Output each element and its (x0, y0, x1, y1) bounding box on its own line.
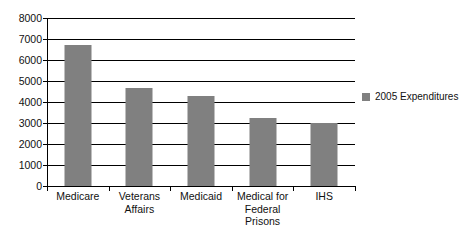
bars-layer (47, 18, 355, 186)
bar-medicaid[interactable] (187, 96, 214, 186)
y-axis-line (47, 18, 48, 187)
x-axis-category-label-medicare: Medicare (47, 190, 109, 203)
y-axis-tick-label: 4000 (0, 97, 42, 107)
bar-slot-medicare (47, 18, 109, 186)
bar-chart: 8000 7000 6000 5000 4000 3000 2000 1000 … (0, 0, 465, 249)
y-axis-tick-label: 5000 (0, 76, 42, 86)
bar-medical-for-federal-prisons[interactable] (249, 118, 276, 186)
legend: 2005 Expenditures (362, 92, 458, 102)
y-axis-tick-label: 2000 (0, 139, 42, 149)
bar-slot-medical-for-federal-prisons (232, 18, 294, 186)
y-axis-tick-label: 8000 (0, 13, 42, 23)
x-axis-category-label-veterans-affairs: Veterans Affairs (109, 190, 171, 215)
y-axis-labels: 8000 7000 6000 5000 4000 3000 2000 1000 … (0, 0, 42, 249)
bar-slot-veterans-affairs (109, 18, 171, 186)
legend-swatch-icon (362, 93, 370, 101)
x-axis-line (47, 186, 356, 187)
x-axis-category-label-medicaid: Medicaid (170, 190, 232, 203)
y-axis-tick-label: 6000 (0, 55, 42, 65)
bar-slot-ihs (293, 18, 355, 186)
bar-ihs[interactable] (311, 123, 338, 186)
y-axis-tick-label: 7000 (0, 34, 42, 44)
bar-medicare[interactable] (64, 45, 91, 186)
legend-entry-label: 2005 Expenditures (375, 92, 458, 102)
x-axis-labels: Medicare Veterans Affairs Medicaid Medic… (47, 190, 355, 248)
x-axis-tick-mark (355, 186, 356, 191)
y-axis-tick-label: 0 (0, 181, 42, 191)
y-axis-tick-label: 3000 (0, 118, 42, 128)
bar-slot-medicaid (170, 18, 232, 186)
y-axis-tick-label: 1000 (0, 160, 42, 170)
x-axis-category-label-medical-for-federal-prisons: Medical for Federal Prisons (232, 190, 294, 228)
x-axis-category-label-ihs: IHS (293, 190, 355, 203)
bar-veterans-affairs[interactable] (126, 88, 153, 186)
